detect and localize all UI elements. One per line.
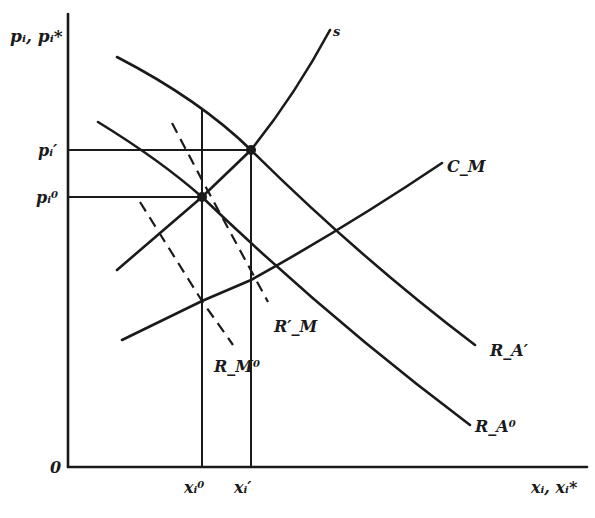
equilibrium-point-prime xyxy=(246,145,256,155)
rm-prime-label: R′_M xyxy=(273,317,319,336)
cm-label: C_M xyxy=(447,157,487,176)
y-axis-label: pᵢ, pᵢ* xyxy=(10,26,63,46)
p-i-zero-label: pᵢ⁰ xyxy=(36,188,58,207)
x-i-zero-label: xᵢ⁰ xyxy=(183,478,204,497)
equilibrium-point-zero xyxy=(197,192,207,202)
ra-prime-curve xyxy=(117,57,475,345)
ra-zero-curve xyxy=(98,122,470,425)
x-i-prime-label: xᵢ′ xyxy=(233,478,252,497)
origin-label: 0 xyxy=(50,458,61,477)
p-i-prime-label: pᵢ′ xyxy=(38,141,58,160)
economic-diagram: pᵢ, pᵢ* xᵢ, xᵢ* 0 pᵢ′ pᵢ⁰ xᵢ⁰ xᵢ′ s C_M … xyxy=(0,0,595,518)
ra-prime-label: R_A′ xyxy=(489,341,529,360)
x-axis-label: xᵢ, xᵢ* xyxy=(530,478,578,497)
ra-zero-label: R_A⁰ xyxy=(474,417,516,436)
supply-label: s xyxy=(333,24,341,39)
rm-zero-label: R_M⁰ xyxy=(213,357,260,376)
